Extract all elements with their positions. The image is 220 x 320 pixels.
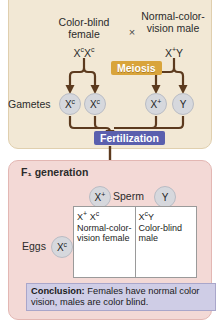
gamete-circle: X+ [145,93,167,115]
gamete-circle: Y [172,93,194,115]
gametes-label: Gametes [8,98,51,110]
meiosis-label: Meiosis [111,61,162,75]
sperm-superscript: + [101,191,105,198]
gamete-superscript: c [97,98,101,105]
conclusion-box: Conclusion: Females have normal color vi… [26,283,216,311]
gamete-superscript: + [157,98,161,105]
punnett-cell: XcY Color-blind male [135,207,197,277]
eggs-label: Eggs [22,240,46,252]
genotype-superscript: + [83,210,87,217]
gamete-circle: Xc [84,93,106,115]
gamete-base: X [65,99,72,110]
gamete-superscript: c [72,98,76,105]
sperm-circle: X+ [89,186,111,208]
egg-superscript: c [64,241,68,248]
punnett-cell-phenotype: Normal-color-vision female [77,223,132,244]
fertilization-label: Fertilization [94,131,165,145]
sperm-label: Sperm [113,190,144,202]
gamete-base: Y [180,99,187,110]
punnett-cell-genotype: X+ Xc [77,209,132,223]
punnett-cell-phenotype: Color-blind male [139,223,194,244]
f1-generation-title: F₁ generation [21,166,88,178]
egg-base: X [57,242,64,253]
egg-circle: Xc [51,236,73,258]
punnett-cell: X+ Xc Normal-color-vision female [74,207,135,277]
conclusion-label: Conclusion: [31,286,85,296]
sperm-circle: Y [154,186,176,208]
sperm-base: Y [162,192,169,203]
punnett-square: X+ Xc Normal-color-vision female XcY Col… [73,206,197,278]
gamete-circle: Xc [59,93,81,115]
punnett-cell-genotype: XcY [139,209,194,223]
genotype-y: Y [148,212,154,222]
genotype-superscript: c [96,210,100,217]
gamete-base: X [90,99,97,110]
